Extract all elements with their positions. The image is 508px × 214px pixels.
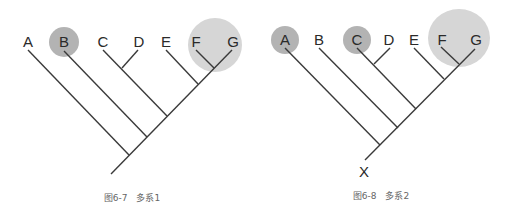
taxon-label-e: E [161, 33, 171, 50]
taxon-label-c: C [98, 33, 109, 50]
taxon-label-b: B [314, 31, 324, 48]
figure-caption: 图6-7 多系1 [104, 192, 160, 203]
main-branch [365, 49, 475, 160]
taxon-label-c: C [352, 31, 363, 48]
taxon-label-g: G [227, 33, 239, 50]
branch-c [103, 50, 167, 116]
taxon-label-e: E [409, 31, 419, 48]
branch-d [122, 50, 138, 68]
taxon-label-a: A [23, 33, 33, 50]
figure-caption: 图6-8 多系2 [353, 190, 409, 201]
taxon-label-d: D [384, 31, 395, 48]
taxon-label-g: G [470, 31, 482, 48]
taxon-label-f: F [437, 31, 446, 48]
taxon-label-b: B [59, 33, 69, 50]
branch-b [64, 51, 147, 137]
taxon-label-f: F [191, 33, 200, 50]
figure-6-7: A B C D E F G 图6-7 多系1 [23, 18, 242, 203]
branch-b [319, 48, 398, 128]
figure-6-8: A B C D E F G X 图6-8 多系2 [271, 9, 490, 201]
taxon-label-d: D [134, 33, 145, 50]
root-label-x: X [359, 163, 369, 180]
taxon-label-a: A [280, 31, 290, 48]
branch-d [374, 48, 390, 64]
main-branch [111, 50, 232, 174]
branch-c [357, 48, 416, 109]
cladogram-canvas: A B C D E F G 图6-7 多系1 A B C D E F G X 图… [0, 0, 508, 214]
